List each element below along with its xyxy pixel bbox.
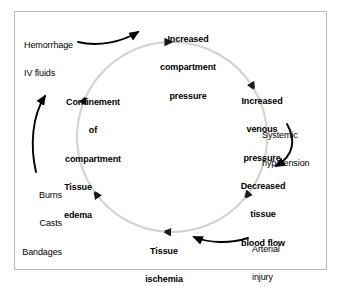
node-line: tissue [241, 210, 286, 219]
factor-systemic-hypotension: Systemic hypotension [262, 112, 309, 188]
node-confinement-of-compartment: Confinement of compartment [65, 79, 121, 183]
node-increased-compartment-pressure: Increased compartment pressure [160, 16, 216, 120]
factor-line: Hemorrhage [24, 41, 73, 50]
factor-line: Systemic [262, 131, 309, 140]
node-line: Confinement [65, 98, 121, 107]
node-line: edema [64, 211, 92, 220]
node-line: of [65, 126, 121, 135]
cycle-arc-bloodflow-to-ischemia [164, 198, 245, 232]
node-tissue-ischemia: Tissue ischemia [145, 228, 183, 286]
node-line: Tissue [64, 183, 92, 192]
factor-line: Burns [22, 191, 62, 200]
factor-line: IV fluids [24, 69, 73, 78]
node-line: compartment [65, 155, 121, 164]
cycle-arc-ischemia-to-edema [94, 192, 164, 232]
arrow-burns-to-confinement [33, 96, 45, 172]
factor-line: injury [252, 273, 280, 282]
arrow-hemorrhage-to-pressure [78, 32, 138, 44]
factor-line: hypotension [262, 159, 309, 168]
factor-arterial-injury: Arterial injury [252, 226, 280, 286]
factor-line: Casts [22, 219, 62, 228]
figure-root: Increased compartment pressure Increased… [0, 0, 344, 286]
node-line: pressure [160, 92, 216, 101]
node-line: Increased [241, 97, 282, 106]
factor-line: Arterial [252, 245, 280, 254]
factor-hemorrhage-iv-fluids: Hemorrhage IV fluids [24, 22, 73, 98]
node-line: ischemia [145, 275, 183, 284]
node-line: Increased [160, 35, 216, 44]
node-line: compartment [160, 63, 216, 72]
factor-line: Bandages [22, 248, 62, 257]
node-line: Tissue [145, 247, 183, 256]
factor-burns-casts-bandages: Burns Casts Bandages [22, 172, 62, 276]
